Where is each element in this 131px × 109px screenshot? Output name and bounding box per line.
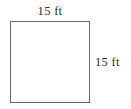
square-outline [10,21,90,103]
geometry-figure: 15 ft 15 ft [0,0,131,109]
top-side-length-label: 15 ft [10,5,90,18]
right-side-length-label: 15 ft [95,56,120,69]
